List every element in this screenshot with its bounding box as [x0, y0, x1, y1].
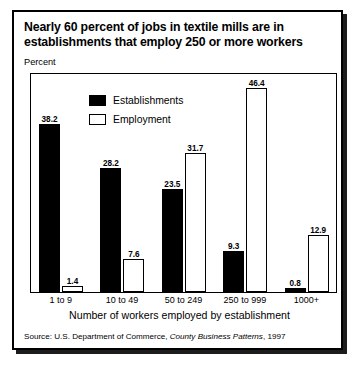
bar-employment: 7.6: [123, 259, 144, 292]
bar-group: 23.531.7: [160, 74, 215, 292]
bar-value-label: 9.3: [228, 242, 239, 251]
bar-value-label: 23.5: [164, 180, 180, 189]
bar-establishments: 28.2: [100, 168, 121, 292]
x-axis-title: Number of workers employed by establishm…: [14, 309, 345, 321]
figure-container: Nearly 60 percent of jobs in textile mil…: [12, 10, 343, 350]
bar-value-label: 31.7: [187, 144, 203, 153]
bar-value-label: 0.8: [289, 279, 300, 288]
x-axis-tick-4: 250 to 999: [214, 295, 275, 305]
bar-establishments: 23.5: [162, 189, 183, 292]
source-prefix: Source: U.S. Department of Commerce,: [24, 332, 170, 341]
bar-establishments: 38.2: [39, 124, 60, 292]
bar-group: 9.346.4: [221, 74, 276, 292]
bar-employment: 46.4: [246, 88, 267, 292]
bar-group: 28.27.6: [98, 74, 153, 292]
bar-establishments: 9.3: [223, 251, 244, 292]
bar-employment: 31.7: [185, 153, 206, 292]
x-axis-tick-3: 50 to 249: [153, 295, 214, 305]
bar-group: 0.812.9: [283, 74, 338, 292]
plot-inner: Establishments Employment 38.21.428.27.6…: [31, 74, 336, 292]
source-suffix: , 1997: [263, 332, 286, 341]
bar-value-label: 28.2: [103, 159, 119, 168]
bar-value-label: 7.6: [128, 250, 139, 259]
bar-value-label: 12.9: [310, 226, 326, 235]
bar-group: 38.21.4: [37, 74, 92, 292]
x-axis-tick-5: 1000+: [276, 295, 337, 305]
bar-employment: 12.9: [308, 235, 329, 292]
chart-title: Nearly 60 percent of jobs in textile mil…: [24, 20, 334, 49]
bar-value-label: 46.4: [249, 79, 265, 88]
bar-establishments: 0.8: [285, 288, 306, 292]
plot-area: Establishments Employment 38.21.428.27.6…: [30, 73, 337, 293]
y-axis-unit-label: Percent: [24, 57, 56, 67]
figure-frame: Nearly 60 percent of jobs in textile mil…: [12, 10, 343, 350]
bar-value-label: 1.4: [67, 277, 78, 286]
x-axis-tick-1: 1 to 9: [30, 295, 91, 305]
bar-employment: 1.4: [62, 286, 83, 292]
source-publication: County Business Patterns: [170, 332, 263, 341]
source-note: Source: U.S. Department of Commerce, Cou…: [24, 332, 285, 341]
x-axis-tick-2: 10 to 49: [91, 295, 152, 305]
bar-value-label: 38.2: [42, 115, 58, 124]
x-axis-tick-labels: 1 to 910 to 4950 to 249250 to 9991000+: [30, 295, 337, 309]
